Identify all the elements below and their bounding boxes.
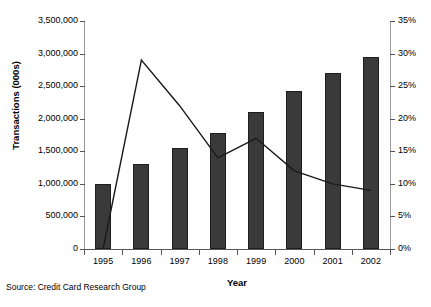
growth-rate-line bbox=[103, 60, 371, 249]
line-series bbox=[0, 0, 431, 307]
chart-container: Transactions (000s) 0500,0001,000,0001,5… bbox=[0, 0, 431, 307]
source-note: Source: Credit Card Research Group bbox=[6, 282, 146, 292]
